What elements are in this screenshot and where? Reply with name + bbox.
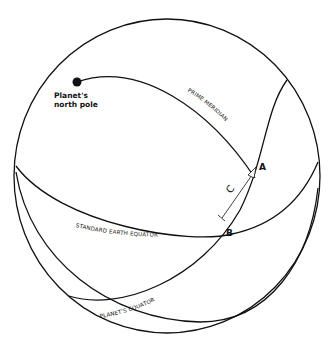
point-a-label: A [259, 162, 266, 172]
planets-equator-line [69, 80, 287, 300]
celestial-sphere-diagram: PRIME MERIDIAN STANDARD EARTH EQUATOR PL… [0, 0, 332, 343]
north-pole-dot [73, 78, 82, 87]
arc-c-label: C [224, 183, 237, 195]
svg-text:PRIME MERIDIAN: PRIME MERIDIAN [187, 87, 229, 122]
point-b-label: B [226, 228, 233, 238]
north-pole-label: Planet's north pole [54, 91, 98, 109]
lower-meridian-line [16, 172, 318, 322]
north-pole-label-line1: Planet's [54, 91, 98, 100]
prime-meridian-label: PRIME MERIDIAN [187, 87, 229, 122]
arc-c-line [222, 175, 252, 218]
sphere-outline [14, 19, 320, 333]
standard-earth-equator-line [16, 162, 318, 237]
prime-meridian-line [77, 77, 255, 178]
north-pole-label-line2: north pole [54, 100, 98, 109]
